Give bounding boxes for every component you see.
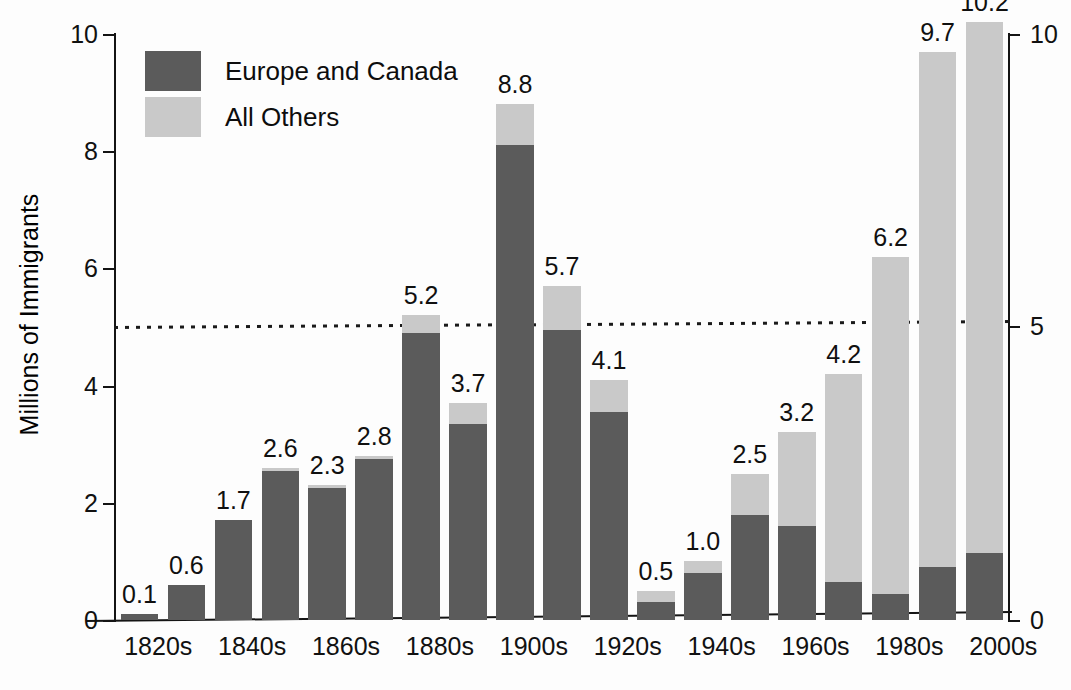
bar-segment-all-others [590, 380, 628, 412]
bar-segment-europe-and-canada [402, 333, 440, 620]
legend-swatch-europe-and-canada [145, 51, 201, 91]
bar-segment-europe-and-canada [966, 553, 1004, 620]
bar-2000s[interactable] [966, 22, 1004, 620]
bar-segment-all-others [966, 22, 1004, 552]
bar-value-label-1970s: 4.2 [826, 342, 861, 367]
bar-1830s[interactable] [168, 585, 206, 620]
bar-segment-europe-and-canada [449, 424, 487, 620]
bar-segment-all-others [731, 474, 769, 515]
bar-1970s[interactable] [825, 374, 863, 620]
bar-segment-europe-and-canada [919, 567, 957, 620]
bar-segment-europe-and-canada [215, 520, 253, 620]
bar-1990s[interactable] [919, 52, 957, 620]
bar-segment-europe-and-canada [308, 488, 346, 620]
x-tick-label-1980s: 1980s [875, 632, 943, 660]
bar-segment-europe-and-canada [637, 602, 675, 620]
bar-value-label-1870s: 2.8 [357, 424, 392, 449]
bar-segment-europe-and-canada [355, 459, 393, 620]
bar-1900s[interactable] [496, 104, 534, 620]
bar-segment-europe-and-canada [872, 594, 910, 620]
bar-value-label-1950s: 2.5 [732, 442, 767, 467]
bar-segment-europe-and-canada [262, 471, 300, 620]
bar-segment-all-others [919, 52, 957, 568]
legend-label-all-others: All Others [225, 104, 339, 130]
bar-segment-all-others [402, 315, 440, 333]
x-tick-label-1860s: 1860s [312, 632, 380, 660]
bar-segment-all-others [778, 432, 816, 526]
bar-segment-all-others [637, 591, 675, 603]
bar-1860s[interactable] [308, 485, 346, 620]
bar-segment-all-others [872, 257, 910, 594]
bar-value-label-1990s: 9.7 [920, 20, 955, 45]
chart-page: 10 8 6 4 2 0 10 5 0 Millions of Immigran… [0, 0, 1071, 690]
bar-1930s[interactable] [637, 591, 675, 620]
x-tick-label-1820s: 1820s [124, 632, 192, 660]
bar-1880s[interactable] [402, 315, 440, 620]
bar-segment-all-others [496, 104, 534, 145]
bar-1890s[interactable] [449, 403, 487, 620]
x-tick-label-2000s: 2000s [969, 632, 1037, 660]
bar-value-label-1890s: 3.7 [451, 371, 486, 396]
bar-segment-europe-and-canada [590, 412, 628, 620]
bar-segment-all-others [449, 403, 487, 424]
bar-segment-europe-and-canada [496, 145, 534, 620]
bar-value-label-1980s: 6.2 [873, 225, 908, 250]
bar-value-label-1840s: 1.7 [216, 488, 251, 513]
bar-value-label-1930s: 0.5 [639, 559, 674, 584]
bar-segment-europe-and-canada [543, 330, 581, 620]
x-tick-label-1940s: 1940s [688, 632, 756, 660]
bar-value-label-2000s: 10.2 [960, 0, 1009, 15]
bar-value-label-1920s: 4.1 [592, 348, 627, 373]
bar-segment-europe-and-canada [825, 582, 863, 620]
bar-value-label-1860s: 2.3 [310, 453, 345, 478]
bar-value-label-1900s: 8.8 [498, 72, 533, 97]
bar-segment-all-others [825, 374, 863, 582]
bar-segment-europe-and-canada [731, 515, 769, 620]
bar-1980s[interactable] [872, 257, 910, 620]
bar-segment-europe-and-canada [684, 573, 722, 620]
bar-1940s[interactable] [684, 561, 722, 620]
legend-item-all-others: All Others [145, 94, 458, 140]
bar-1820s[interactable] [121, 614, 159, 620]
x-tick-label-1920s: 1920s [594, 632, 662, 660]
bar-1950s[interactable] [731, 474, 769, 621]
bar-segment-all-others [543, 286, 581, 330]
bar-value-label-1940s: 1.0 [685, 529, 720, 554]
x-tick-label-1840s: 1840s [218, 632, 286, 660]
chart-legend: Europe and Canada All Others [145, 48, 458, 140]
bar-value-label-1880s: 5.2 [404, 283, 439, 308]
legend-label-europe-and-canada: Europe and Canada [225, 58, 458, 84]
x-tick-label-1880s: 1880s [406, 632, 474, 660]
bar-value-label-1910s: 5.7 [545, 254, 580, 279]
bar-segment-europe-and-canada [121, 614, 159, 620]
legend-swatch-all-others [145, 97, 201, 137]
bar-1850s[interactable] [262, 468, 300, 620]
bar-1870s[interactable] [355, 456, 393, 620]
x-tick-label-1900s: 1900s [500, 632, 568, 660]
bar-value-label-1960s: 3.2 [779, 400, 814, 425]
bar-value-label-1830s: 0.6 [169, 553, 204, 578]
x-tick-label-1960s: 1960s [781, 632, 849, 660]
bar-1960s[interactable] [778, 432, 816, 620]
bar-segment-europe-and-canada [778, 526, 816, 620]
bar-1840s[interactable] [215, 520, 253, 620]
bar-segment-europe-and-canada [168, 585, 206, 620]
bar-1920s[interactable] [590, 380, 628, 620]
bar-segment-all-others [684, 561, 722, 573]
bar-1910s[interactable] [543, 286, 581, 620]
bar-value-label-1820s: 0.1 [122, 582, 157, 607]
bar-value-label-1850s: 2.6 [263, 436, 298, 461]
legend-item-europe-and-canada: Europe and Canada [145, 48, 458, 94]
